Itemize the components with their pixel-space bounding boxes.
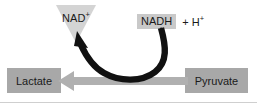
lactate-dehydrogenase-reaction-diagram: NAD+ NADH + H+ Lactate Pyruvate: [0, 0, 257, 103]
proton-label: + H+: [182, 16, 204, 28]
curved-arrow-tail-taper: [161, 28, 166, 50]
nadh-group: NADH + H+: [137, 14, 204, 29]
nad-text: NAD: [62, 12, 86, 24]
reaction-arrow-left: [58, 70, 188, 92]
lactate-box: Lactate: [7, 68, 61, 93]
lactate-label: Lactate: [16, 75, 52, 87]
hydrogen-charge: +: [200, 14, 204, 23]
pyruvate-box: Pyruvate: [185, 68, 248, 93]
nad-oxidized-label: NAD+: [56, 12, 96, 24]
pyruvate-label: Pyruvate: [195, 75, 238, 87]
nad-oxidized-triangle: NAD+: [56, 5, 96, 43]
plus-sign: +: [182, 16, 188, 28]
reaction-arrow-shape: [58, 71, 188, 91]
nad-charge: +: [86, 10, 90, 19]
nadh-label: NADH: [137, 14, 176, 29]
bottom-divider: [0, 102, 257, 103]
triangle-shape: [56, 5, 96, 43]
hydrogen-text: H: [192, 16, 200, 28]
